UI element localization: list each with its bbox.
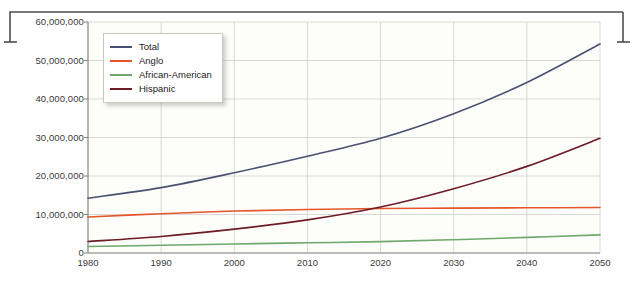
series-line-anglo: [88, 208, 600, 217]
legend-item-label: Hispanic: [139, 84, 175, 94]
x-tick-label: 2010: [287, 258, 327, 268]
legend-color-swatch-icon: [110, 60, 132, 62]
y-tick-label: 60,000,000: [35, 17, 84, 27]
legend-item[interactable]: Anglo: [110, 54, 212, 68]
chart-plot: [0, 0, 633, 284]
legend-item[interactable]: Hispanic: [110, 82, 212, 96]
legend-color-swatch-icon: [110, 74, 132, 76]
chart-legend: TotalAngloAfrican-AmericanHispanic: [103, 33, 223, 103]
legend-item[interactable]: Total: [110, 40, 212, 54]
legend-color-swatch-icon: [110, 88, 132, 90]
y-tick-label: 50,000,000: [35, 56, 84, 66]
legend-item[interactable]: African-American: [110, 68, 212, 82]
x-tick-label: 2050: [580, 258, 620, 268]
y-tick-label: 20,000,000: [35, 171, 84, 181]
x-tick-label: 2040: [507, 258, 547, 268]
x-axis-labels: 19801990200020102020203020402050: [0, 258, 633, 278]
legend-item-label: Total: [139, 42, 159, 52]
chart-container: 010,000,00020,000,00030,000,00040,000,00…: [0, 0, 633, 284]
legend-color-swatch-icon: [110, 46, 132, 48]
legend-item-label: Anglo: [139, 56, 163, 66]
y-tick-label: 30,000,000: [35, 133, 84, 143]
x-tick-label: 2000: [214, 258, 254, 268]
legend-item-label: African-American: [139, 70, 212, 80]
y-axis-labels: 010,000,00020,000,00030,000,00040,000,00…: [0, 0, 84, 284]
y-tick-label: 10,000,000: [35, 210, 84, 220]
x-tick-label: 2020: [361, 258, 401, 268]
x-tick-label: 1990: [141, 258, 181, 268]
series-line-hispanic: [88, 138, 600, 241]
x-tick-label: 1980: [68, 258, 108, 268]
x-tick-label: 2030: [434, 258, 474, 268]
y-tick-label: 40,000,000: [35, 94, 84, 104]
